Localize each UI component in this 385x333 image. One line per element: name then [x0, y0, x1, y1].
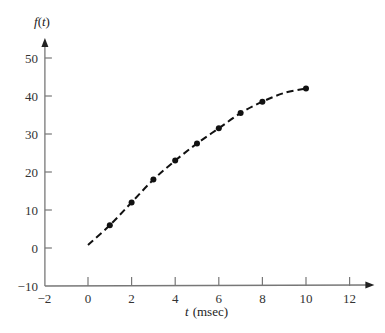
- y-axis-label-paren-close: ): [46, 14, 50, 29]
- x-axis-label: t(msec): [185, 304, 228, 319]
- x-axis-label-var: t: [185, 304, 189, 319]
- data-point-marker: [194, 141, 200, 147]
- x-axis-label-unit: (msec): [193, 304, 228, 319]
- x-tick-label: 8: [259, 291, 266, 306]
- y-tick-label: 0: [31, 241, 38, 256]
- y-tick-label: 10: [25, 203, 38, 218]
- data-point-marker: [216, 125, 222, 131]
- x-tick-label: 12: [343, 291, 356, 306]
- data-point-marker: [129, 199, 135, 205]
- y-tick-label: −10: [18, 279, 38, 294]
- y-tick-label: 40: [25, 89, 38, 104]
- data-point-marker: [259, 99, 265, 105]
- x-tick-label: 10: [300, 291, 313, 306]
- chart: −1001020304050 −2024681012 f(t) t(msec): [0, 0, 385, 333]
- x-tick-label: −2: [37, 291, 51, 306]
- y-axis-arrow-icon: [41, 38, 48, 47]
- y-axis-label: f(t): [34, 14, 50, 29]
- x-axis-arrow-icon: [365, 282, 374, 289]
- data-point-marker: [150, 177, 156, 183]
- data-point-marker: [303, 85, 309, 91]
- x-tick-label: 0: [85, 291, 92, 306]
- data-series: [88, 85, 309, 245]
- x-axis-line: [45, 285, 368, 286]
- x-tick-label: 2: [128, 291, 135, 306]
- y-tick-label: 50: [25, 51, 38, 66]
- y-tick-label: 30: [25, 127, 38, 142]
- data-point-marker: [172, 158, 178, 164]
- data-point-marker: [238, 110, 244, 116]
- x-tick-label: 4: [172, 291, 179, 306]
- y-axis: −1001020304050: [18, 38, 52, 294]
- data-point-marker: [107, 222, 113, 228]
- y-tick-label: 20: [25, 165, 38, 180]
- x-axis: −2024681012: [37, 277, 374, 306]
- dashed-curve: [88, 88, 306, 245]
